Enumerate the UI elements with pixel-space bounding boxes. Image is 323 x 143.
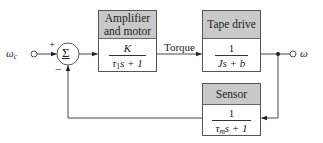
sigma-symbol: Σ [62,45,70,61]
tape-drive-header: Tape drive [203,11,260,39]
input-terminal-icon [31,51,37,57]
tape-drive-transfer-function: 1 Js + b [203,39,260,71]
plus-sign: + [49,38,55,50]
output-label: ω [300,47,308,59]
torque-label: Torque [164,41,195,53]
tape-drive-block: Tape drive 1 Js + b [202,10,261,72]
minus-sign: − [55,63,61,75]
sensor-header: Sensor [203,84,260,105]
input-label: ωc [6,47,17,59]
sensor-transfer-function: 1 τms + 1 [203,105,260,135]
amplifier-motor-block: Amplifier and motor K τ1s + 1 [98,10,157,72]
amplifier-motor-header: Amplifier and motor [99,11,156,39]
sensor-block: Sensor 1 τms + 1 [202,83,261,136]
signal-wires [0,0,323,143]
amplifier-motor-transfer-function: K τ1s + 1 [99,39,156,71]
output-terminal-icon [290,51,296,57]
